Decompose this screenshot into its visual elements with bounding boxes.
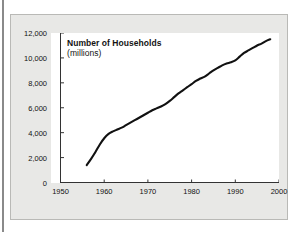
y-axis-tick-labels: 02,0004,0006,0008,00010,00012,000 bbox=[11, 33, 47, 183]
y-axis-tick-label: 0 bbox=[43, 178, 47, 187]
y-axis-tick-label: 8,000 bbox=[28, 78, 47, 87]
x-axis-tick-label: 1990 bbox=[227, 187, 244, 196]
chart-plot-area: Number of Households (millions) bbox=[51, 33, 279, 183]
y-axis-tick-label: 6,000 bbox=[28, 103, 47, 112]
y-axis-tick-label: 10,000 bbox=[24, 53, 47, 62]
x-axis-tick-labels: 195019601970198019902000 bbox=[51, 187, 279, 201]
y-axis-ticks bbox=[61, 33, 65, 183]
y-axis-tick-label: 12,000 bbox=[24, 29, 47, 38]
chart-title-block: Number of Households (millions) bbox=[67, 38, 162, 59]
chart-title: Number of Households bbox=[67, 38, 162, 48]
x-axis-tick-label: 1960 bbox=[96, 187, 113, 196]
chart-figure-panel: 02,0004,0006,0008,00010,00012,000 Number… bbox=[10, 14, 288, 220]
y-axis-tick-label: 4,000 bbox=[28, 128, 47, 137]
x-axis-tick-label: 1970 bbox=[140, 187, 157, 196]
x-axis-tick-label: 1950 bbox=[52, 187, 69, 196]
chart-subtitle: (millions) bbox=[67, 48, 162, 58]
x-axis-tick-label: 2000 bbox=[271, 187, 288, 196]
x-axis-tick-label: 1980 bbox=[183, 187, 200, 196]
y-axis-tick-label: 2,000 bbox=[28, 153, 47, 162]
page-edge-rule bbox=[2, 0, 4, 232]
